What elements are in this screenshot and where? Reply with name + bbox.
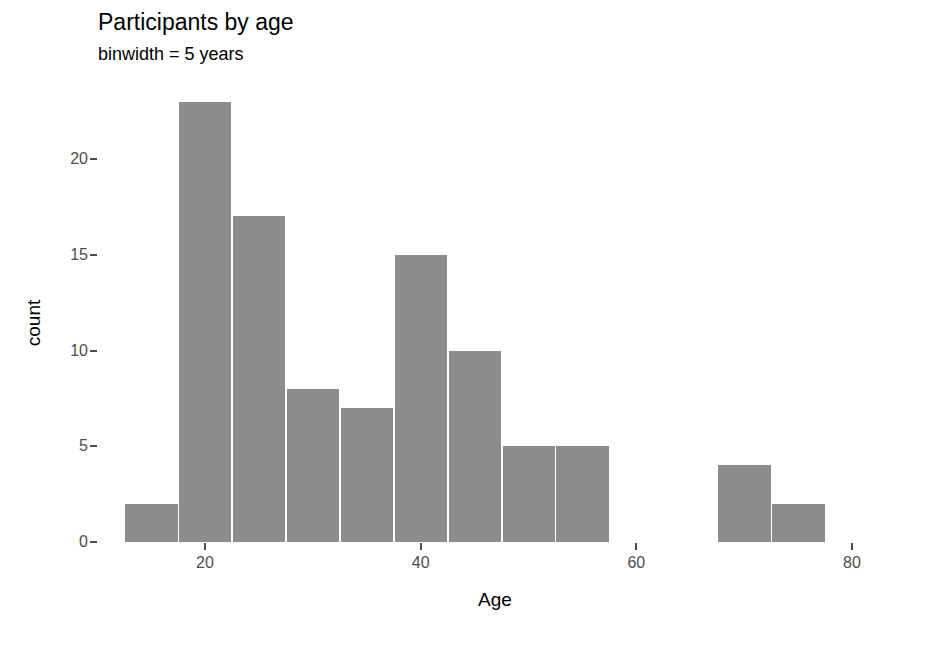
x-tick-label: 60: [627, 554, 645, 572]
histogram-chart: Participants by age binwidth = 5 years 0…: [0, 0, 938, 646]
x-tick-label: 40: [412, 554, 430, 572]
x-tick-mark: [420, 543, 422, 550]
x-tick-mark: [851, 543, 853, 550]
x-tick-mark: [204, 543, 206, 550]
x-axis: 20406080: [0, 0, 938, 646]
x-tick-label: 80: [843, 554, 861, 572]
x-tick-label: 20: [196, 554, 214, 572]
x-axis-title: Age: [478, 589, 512, 611]
x-tick-mark: [635, 543, 637, 550]
